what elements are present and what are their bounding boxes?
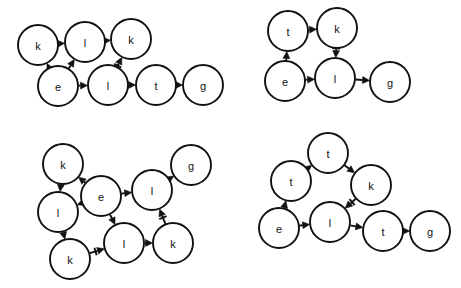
graph-node[interactable]: t bbox=[136, 65, 176, 105]
arrow-head-icon bbox=[362, 77, 369, 84]
node-label: k bbox=[368, 180, 374, 192]
graph-node[interactable]: k bbox=[50, 239, 90, 279]
node-label: k bbox=[128, 34, 134, 46]
graph-node[interactable]: e bbox=[259, 208, 299, 248]
graph-node[interactable]: t bbox=[363, 211, 403, 251]
graph-node[interactable]: k bbox=[317, 8, 357, 48]
node-label: l bbox=[151, 185, 153, 197]
arrow-head-icon bbox=[109, 217, 115, 225]
graph-node[interactable]: e bbox=[38, 66, 78, 106]
arrow-head-icon bbox=[124, 190, 131, 197]
arrow-head-icon bbox=[80, 82, 87, 89]
arrow-head-icon bbox=[57, 184, 64, 191]
graph-edge bbox=[68, 59, 75, 68]
arrow-head-icon bbox=[129, 82, 136, 89]
arrow-bar-icon bbox=[159, 216, 166, 219]
graph-node[interactable]: l bbox=[132, 170, 172, 210]
top-left-graph: klkeltg bbox=[18, 19, 223, 106]
graph-edge bbox=[350, 223, 363, 230]
node-label: g bbox=[200, 80, 206, 92]
node-label: t bbox=[289, 176, 292, 188]
graph-node[interactable]: l bbox=[38, 192, 78, 232]
arrow-bar-icon bbox=[94, 248, 96, 256]
graph-edge bbox=[283, 51, 290, 60]
node-label: e bbox=[55, 81, 61, 93]
graph-node[interactable]: t bbox=[268, 11, 308, 51]
node-layer: kelklklg bbox=[38, 144, 211, 279]
graph-edge bbox=[121, 190, 131, 197]
graph-figure-container: klkeltgtkelgkelklklgttkeltg bbox=[0, 0, 461, 288]
node-label: t bbox=[381, 226, 384, 238]
node-label: l bbox=[107, 80, 109, 92]
arrow-head-icon bbox=[159, 209, 165, 217]
graph-edge bbox=[129, 82, 136, 89]
graph-edge bbox=[90, 248, 105, 256]
graph-edge bbox=[345, 199, 356, 209]
node-label: e bbox=[276, 223, 282, 235]
edge-line bbox=[69, 65, 71, 68]
arrow-head-icon bbox=[307, 76, 314, 83]
node-label: k bbox=[334, 23, 340, 35]
node-label: l bbox=[84, 37, 86, 49]
graph-node[interactable]: t bbox=[308, 133, 348, 173]
arrow-head-icon bbox=[309, 26, 316, 33]
node-label: g bbox=[188, 160, 194, 172]
graph-node[interactable]: l bbox=[88, 65, 128, 105]
edge-line bbox=[350, 225, 356, 226]
arrow-head-icon bbox=[283, 51, 290, 58]
graph-edge bbox=[159, 209, 167, 224]
bottom-right-graph: ttkeltg bbox=[259, 133, 450, 251]
graph-node[interactable]: l bbox=[310, 202, 350, 242]
arrow-head-icon bbox=[333, 50, 340, 57]
node-label: l bbox=[123, 238, 125, 250]
node-label: k bbox=[170, 238, 176, 250]
graph-node[interactable]: g bbox=[410, 211, 450, 251]
graph-node[interactable]: k bbox=[43, 144, 83, 184]
node-label: k bbox=[35, 40, 41, 52]
graph-edge bbox=[145, 240, 153, 247]
node-label: k bbox=[60, 159, 66, 171]
edge-line bbox=[110, 214, 112, 218]
graph-node[interactable]: l bbox=[315, 58, 355, 98]
edge-line bbox=[344, 165, 348, 168]
graph-node[interactable]: k bbox=[111, 19, 151, 59]
top-right-graph: tkelg bbox=[265, 8, 410, 102]
graph-edge bbox=[305, 76, 314, 83]
arrow-head-icon bbox=[355, 223, 362, 230]
node-label: g bbox=[427, 226, 433, 238]
node-label: l bbox=[334, 73, 336, 85]
graph-node[interactable]: t bbox=[271, 161, 311, 201]
arrow-head-icon bbox=[146, 240, 153, 247]
graph-edge bbox=[79, 82, 88, 89]
graph-edge bbox=[355, 77, 369, 84]
arrow-head-icon bbox=[302, 222, 309, 229]
bottom-left-graph: kelklklg bbox=[38, 144, 211, 279]
node-label: k bbox=[67, 254, 73, 266]
graph-node[interactable]: k bbox=[18, 25, 58, 65]
node-label: l bbox=[57, 207, 59, 219]
node-label: t bbox=[286, 26, 289, 38]
graph-edge bbox=[299, 222, 309, 229]
node-label: e bbox=[98, 191, 104, 203]
graph-node[interactable]: g bbox=[370, 62, 410, 102]
node-label: l bbox=[329, 217, 331, 229]
edge-line bbox=[355, 79, 362, 80]
node-label: e bbox=[282, 76, 288, 88]
graph-node[interactable]: g bbox=[183, 65, 223, 105]
graph-edge bbox=[308, 26, 316, 33]
graph-edge bbox=[332, 48, 340, 57]
graph-node[interactable]: k bbox=[153, 223, 193, 263]
graph-node[interactable]: k bbox=[351, 165, 391, 205]
graph-node[interactable]: e bbox=[265, 61, 305, 101]
graph-node[interactable]: l bbox=[104, 223, 144, 263]
graph-node[interactable]: l bbox=[65, 22, 105, 62]
node-label: t bbox=[154, 80, 157, 92]
node-layer: ttkeltg bbox=[259, 133, 450, 251]
node-label: g bbox=[387, 77, 393, 89]
graph-edge bbox=[344, 165, 354, 173]
directed-graphs-figure: klkeltgtkelgkelklklgttkeltg bbox=[0, 0, 461, 288]
node-label: t bbox=[326, 148, 329, 160]
graph-node[interactable]: e bbox=[81, 176, 121, 216]
arrow-head-icon bbox=[97, 248, 105, 255]
graph-node[interactable]: g bbox=[171, 145, 211, 185]
